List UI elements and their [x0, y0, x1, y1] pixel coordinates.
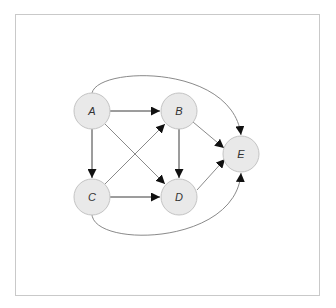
node-c-label: C: [88, 191, 96, 203]
node-b[interactable]: B: [161, 93, 197, 129]
node-e[interactable]: E: [223, 136, 259, 172]
edge-d-to-e: [197, 159, 225, 190]
graph-canvas: A B C D E: [0, 0, 336, 308]
node-c[interactable]: C: [74, 179, 110, 215]
edge-b-to-e: [193, 122, 224, 148]
node-a[interactable]: A: [74, 93, 110, 129]
node-d[interactable]: D: [161, 179, 197, 215]
node-d-label: D: [175, 191, 183, 203]
node-b-label: B: [175, 105, 182, 117]
node-e-label: E: [237, 148, 245, 160]
node-a-label: A: [87, 105, 95, 117]
